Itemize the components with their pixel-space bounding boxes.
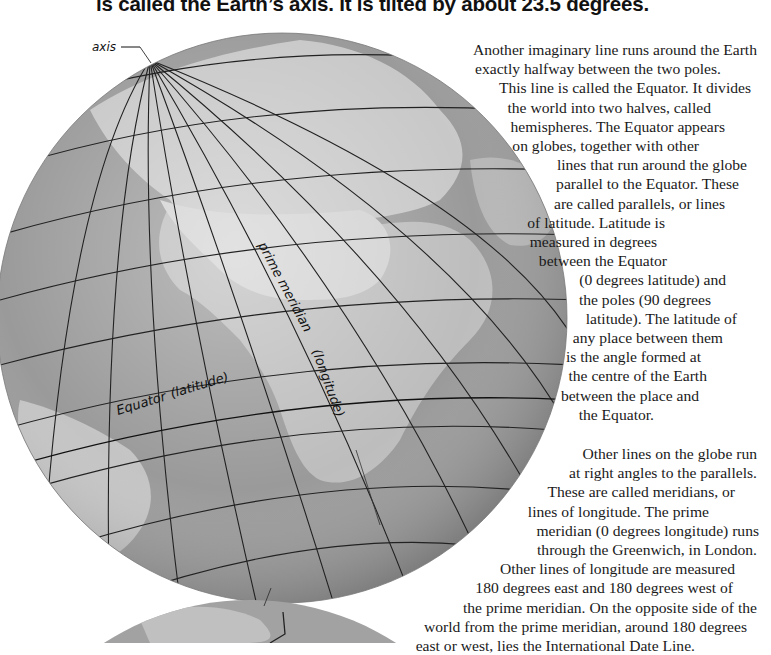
text-line: east or west, lies the International Dat… xyxy=(363,636,695,655)
text-line: hemispheres. The Equator appears xyxy=(403,117,725,136)
text-line: measured in degrees xyxy=(403,232,657,251)
text-line: are called parallels, or lines xyxy=(403,194,725,213)
text-line: This line is called the Equator. It divi… xyxy=(403,78,751,97)
paragraph-meridians-longitude: Other lines on the globe run at right an… xyxy=(363,444,763,655)
text-line: lines of longitude. The prime xyxy=(363,502,709,521)
text-line: (0 degrees latitude) and xyxy=(403,270,726,289)
text-line: the world into two halves, called xyxy=(403,98,711,117)
text-line: of latitude. Latitude is xyxy=(403,213,665,232)
text-line: between the Equator xyxy=(403,251,667,270)
text-line: any place between them xyxy=(403,328,723,347)
text-line: Another imaginary line runs around the E… xyxy=(403,40,757,59)
text-line: 180 degrees east and 180 degrees west of xyxy=(363,578,733,597)
text-line: at right angles to the parallels. xyxy=(363,463,757,482)
text-line: the prime meridian. On the opposite side… xyxy=(363,598,757,617)
text-line: parallel to the Equator. These xyxy=(403,174,739,193)
text-line: on globes, together with other xyxy=(403,136,699,155)
text-line: is the angle formed at xyxy=(403,347,701,366)
text-line: Other lines of longitude are measured xyxy=(363,559,735,578)
text-line: the centre of the Earth xyxy=(403,366,707,385)
text-line: exactly halfway between the two poles. xyxy=(403,59,721,78)
text-line: between the place and xyxy=(403,386,699,405)
paragraph-equator-latitude: Another imaginary line runs around the E… xyxy=(403,40,763,424)
text-line: meridian (0 degrees longitude) runs xyxy=(363,521,759,540)
text-line: world from the prime meridian, around 18… xyxy=(363,617,747,636)
text-line: the poles (90 degrees xyxy=(403,290,711,309)
text-line: Other lines on the globe run xyxy=(363,444,757,463)
text-line: through the Greenwich, in London. xyxy=(363,540,757,559)
text-line: latitude). The latitude of xyxy=(403,309,737,328)
text-line: the Equator. xyxy=(403,405,654,424)
axis-label: axis xyxy=(92,40,116,54)
text-line: These are called meridians, or xyxy=(363,482,735,501)
text-line: lines that run around the globe xyxy=(403,155,747,174)
